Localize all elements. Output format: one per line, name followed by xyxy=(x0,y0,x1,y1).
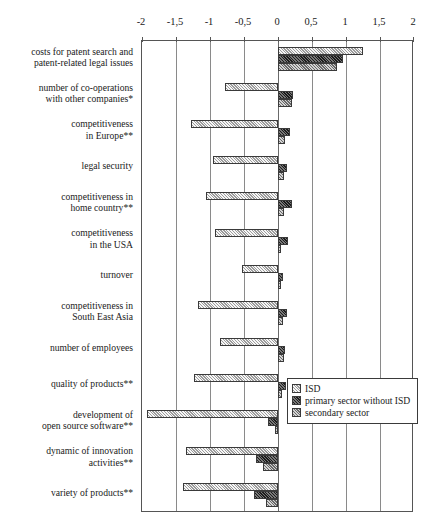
x-axis-tick-labels: -2-1,5-1-0,500,511,52 xyxy=(0,16,429,34)
bar-series-0 xyxy=(215,229,278,237)
bar-series-0 xyxy=(220,338,278,346)
category-label-line: costs for patent search and xyxy=(0,46,133,58)
x-tick-label: -2 xyxy=(137,16,146,28)
x-tick-mark xyxy=(176,37,177,42)
x-tick-mark xyxy=(142,37,143,42)
bar-series-1 xyxy=(278,273,283,281)
legend-label: primary sector without ISD xyxy=(305,395,410,406)
category-label-line: variety of products** xyxy=(0,487,133,499)
bar-series-1 xyxy=(278,55,343,63)
horizontal-bar-chart: -2-1,5-1-0,500,511,52 costs for patent s… xyxy=(0,0,429,528)
x-tick-mark xyxy=(278,37,279,42)
category-label-line: number of co-operations xyxy=(0,82,133,94)
category-label-line: in the USA xyxy=(0,239,133,251)
bar-series-1 xyxy=(268,418,278,426)
category-label-line: number of employees xyxy=(0,342,133,354)
gridline xyxy=(244,41,245,511)
legend-label: ISD xyxy=(305,383,320,394)
bar-series-0 xyxy=(186,447,278,455)
category-label-line: open source software** xyxy=(0,420,133,432)
gridline xyxy=(176,41,177,511)
category-label-line: development of xyxy=(0,409,133,421)
bar-series-2 xyxy=(278,63,337,71)
bar-series-1 xyxy=(278,382,286,390)
x-tick-label: -1 xyxy=(205,16,214,28)
category-label-line: competitiveness xyxy=(0,227,133,239)
category-label-line: South East Asia xyxy=(0,311,133,323)
bar-series-0 xyxy=(213,156,278,164)
category-label-line: patent-related legal issues xyxy=(0,57,133,69)
x-tick-label: 1,5 xyxy=(372,16,385,28)
x-tick-label: 0,5 xyxy=(304,16,317,28)
bar-series-0 xyxy=(191,120,278,128)
legend-label: secondary sector xyxy=(305,407,369,418)
bar-series-0 xyxy=(242,265,278,273)
category-label: number of co-operationswith other compan… xyxy=(0,82,133,105)
bar-series-0 xyxy=(183,483,278,491)
x-tick-mark xyxy=(346,37,347,42)
bar-series-1 xyxy=(278,91,293,99)
legend-item: secondary sector xyxy=(292,407,413,418)
category-label: competitivenessin Europe** xyxy=(0,118,133,141)
category-label-line: with other companies* xyxy=(0,93,133,105)
gridline xyxy=(380,41,381,511)
bar-series-2 xyxy=(278,208,284,216)
category-label: competitiveness inSouth East Asia xyxy=(0,300,133,323)
category-axis-labels: costs for patent search andpatent-relate… xyxy=(0,40,137,512)
bar-series-0 xyxy=(147,410,278,418)
bar-series-0 xyxy=(206,192,278,200)
category-label: competitiveness inhome country** xyxy=(0,191,133,214)
category-label-line: in Europe** xyxy=(0,130,133,142)
bar-series-1 xyxy=(278,309,287,317)
category-label-line: quality of products** xyxy=(0,378,133,390)
chart-legend: ISDprimary sector without ISDsecondary s… xyxy=(287,378,418,424)
bar-series-2 xyxy=(278,99,292,107)
bar-series-1 xyxy=(278,200,292,208)
category-label: turnover xyxy=(0,269,133,281)
gridline xyxy=(312,41,313,511)
category-label-line: competitiveness xyxy=(0,118,133,130)
category-label-line: dynamic of innovation xyxy=(0,445,133,457)
bar-series-2 xyxy=(278,317,283,325)
category-label: variety of products** xyxy=(0,487,133,499)
category-label: number of employees xyxy=(0,342,133,354)
bar-series-0 xyxy=(278,47,363,55)
x-tick-label: -0,5 xyxy=(235,16,252,28)
x-tick-mark xyxy=(312,37,313,42)
legend-swatch-icon xyxy=(292,396,301,405)
bar-series-1 xyxy=(256,455,278,463)
bar-series-0 xyxy=(194,374,278,382)
bar-series-2 xyxy=(278,390,282,398)
x-tick-label: 0 xyxy=(274,16,279,28)
gridline xyxy=(346,41,347,511)
x-tick-mark xyxy=(210,37,211,42)
category-label: dynamic of innovationactivities** xyxy=(0,445,133,468)
bar-series-0 xyxy=(198,301,278,309)
bar-series-2 xyxy=(263,463,278,471)
bar-series-2 xyxy=(278,354,284,362)
bar-series-1 xyxy=(278,164,287,172)
gridline xyxy=(210,41,211,511)
category-label: development ofopen source software** xyxy=(0,409,133,432)
x-tick-mark xyxy=(413,37,414,42)
plot-area xyxy=(141,40,413,512)
category-label-line: legal security xyxy=(0,160,133,172)
x-tick-label: 2 xyxy=(410,16,415,28)
legend-item: ISD xyxy=(292,383,413,394)
bar-series-1 xyxy=(278,128,290,136)
category-label-line: turnover xyxy=(0,269,133,281)
legend-swatch-icon xyxy=(292,408,301,417)
category-label-line: competitiveness in xyxy=(0,191,133,203)
category-label-line: competitiveness in xyxy=(0,300,133,312)
x-tick-label: -1,5 xyxy=(167,16,184,28)
category-label-line: home country** xyxy=(0,202,133,214)
legend-item: primary sector without ISD xyxy=(292,395,413,406)
bar-series-2 xyxy=(275,426,278,434)
category-label-line: activities** xyxy=(0,457,133,469)
bar-series-2 xyxy=(278,281,281,289)
bar-series-2 xyxy=(278,172,284,180)
bar-series-2 xyxy=(266,499,278,507)
category-label: legal security xyxy=(0,160,133,172)
category-label: quality of products** xyxy=(0,378,133,390)
bar-series-2 xyxy=(278,245,281,253)
